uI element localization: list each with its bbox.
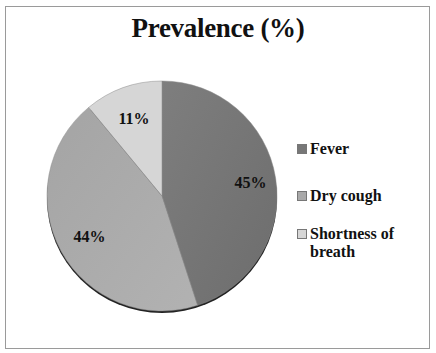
legend-swatch-shortness-of-breath — [297, 229, 307, 239]
legend-swatch-fever — [297, 144, 307, 154]
legend-label: Shortness of breath — [310, 225, 427, 261]
legend-label: Fever — [310, 140, 349, 158]
legend-swatch-dry-cough — [297, 191, 307, 201]
legend-label: Dry cough — [310, 187, 382, 205]
data-label: 44% — [73, 228, 105, 245]
pie-chart: 45%44%11% — [0, 0, 436, 353]
data-label: 11% — [118, 110, 149, 127]
data-label: 45% — [235, 174, 267, 191]
legend-item-shortness-of-breath: Shortness of breath — [297, 225, 427, 261]
legend-item-fever: Fever — [297, 140, 349, 158]
legend-item-dry-cough: Dry cough — [297, 187, 382, 205]
